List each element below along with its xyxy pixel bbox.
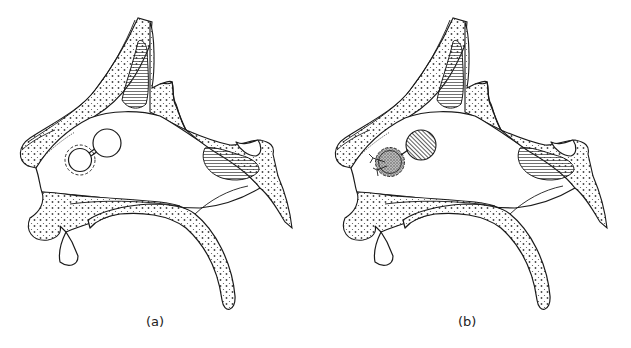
flap-donor-circle: [93, 129, 121, 157]
figure-canvas: [0, 0, 631, 348]
panel-a-label: (a): [146, 314, 164, 329]
rotated-flap-hatched: [406, 130, 436, 160]
panel-b-label: (b): [458, 314, 476, 329]
graft-stippled: [376, 148, 405, 177]
septal-perforation: [69, 149, 92, 172]
panel-a-drawing: [20, 18, 292, 309]
panel-b-drawing: [335, 18, 607, 309]
